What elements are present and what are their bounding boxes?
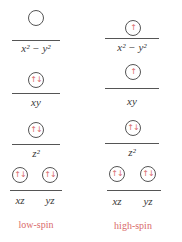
caption-high-spin: high-spin (93, 220, 173, 231)
orbital-z2: ↑↓ (125, 120, 141, 136)
level-line (12, 144, 60, 145)
label-xy: xy (105, 96, 159, 107)
label-xy: xy (12, 97, 60, 108)
orbital-xy: ↑ (125, 64, 141, 80)
orbital-x2-y2 (28, 10, 44, 26)
orbital-x2-y2: ↑ (125, 20, 141, 36)
orbital-xz: ↑↓ (109, 166, 125, 182)
orbital-xz: ↑↓ (12, 167, 28, 183)
level-line (105, 143, 159, 144)
level-line (12, 93, 60, 94)
orbital-yz: ↑↓ (140, 166, 156, 182)
level-line (12, 40, 60, 41)
level-line (10, 190, 62, 191)
orbital-xy: ↑↓ (28, 72, 44, 88)
label-xz: xz (12, 195, 28, 206)
orbital-z2: ↑↓ (28, 122, 44, 138)
label-z2: z² (105, 147, 159, 158)
label-yz: yz (140, 196, 156, 207)
label-z2: z² (12, 148, 60, 159)
level-line (105, 38, 159, 39)
level-line (107, 190, 161, 191)
label-yz: yz (42, 195, 58, 206)
orbital-yz: ↑↓ (42, 167, 58, 183)
label-x2-y2: x² − y² (105, 42, 159, 53)
level-line (105, 88, 159, 89)
caption-low-spin: low-spin (0, 219, 76, 230)
label-x2-y2: x² − y² (12, 43, 60, 54)
label-xz: xz (109, 196, 125, 207)
